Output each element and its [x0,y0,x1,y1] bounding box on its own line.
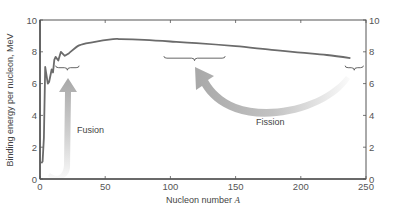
binding-energy-curve [41,39,350,163]
x-tick-label: 50 [100,181,111,192]
right-y-tick-label: 0 [369,174,374,185]
fission-label: Fission [256,117,285,127]
x-tick-label: 200 [293,181,309,192]
curve-line [41,39,350,163]
brace [56,66,79,71]
brace [164,56,225,61]
y-axis-label: Binding energy per nucleon, MeV [5,33,15,166]
fusion-arrow [48,78,77,180]
right-y-tick-label: 10 [369,15,380,26]
right-y-tick-label: 2 [369,142,374,153]
y-tick-label: 10 [26,15,37,26]
x-tick-label: 100 [162,181,178,192]
binding-energy-chart: 05010015020025002468100246810 Binding en… [0,0,400,219]
right-y-tick-label: 6 [369,78,374,89]
axes: 05010015020025002468100246810 [26,15,379,193]
brace [345,66,363,71]
x-axis-label-var: A [234,195,241,205]
fusion-label: Fusion [77,125,104,135]
x-tick-label: 150 [228,181,244,192]
y-tick-label: 0 [32,174,37,185]
right-y-tick-label: 8 [369,46,374,57]
right-y-tick-label: 4 [369,110,374,121]
y-tick-label: 4 [32,110,37,121]
y-tick-label: 6 [32,78,37,89]
y-tick-label: 8 [32,46,37,57]
arrows-layer [48,67,350,180]
x-axis-label-text: Nucleon number [166,195,235,205]
x-tick-label: 0 [37,181,42,192]
x-axis-label: Nucleon number A [166,195,241,205]
y-tick-label: 2 [32,142,37,153]
fission-arrow [195,67,350,117]
braces-layer [56,56,364,70]
